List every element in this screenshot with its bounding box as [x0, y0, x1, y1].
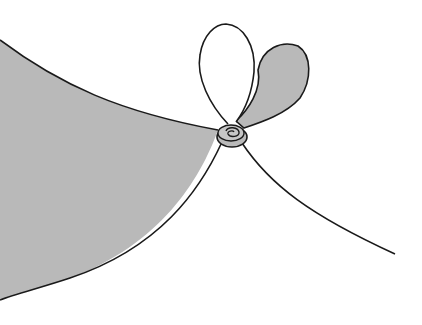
knot-coil: [217, 125, 247, 147]
tail-line: [242, 143, 395, 254]
diagram-canvas: [0, 0, 422, 325]
